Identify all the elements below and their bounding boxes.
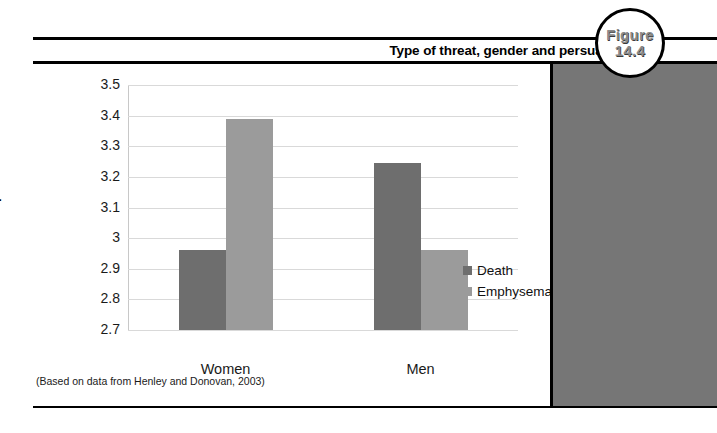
figure-badge-number: 14.4 — [615, 43, 645, 59]
figure-title: Type of threat, gender and persuasion — [33, 40, 648, 61]
source-note: (Based on data from Henley and Donovan, … — [36, 375, 265, 387]
gridline — [128, 85, 518, 86]
gridline — [128, 330, 518, 331]
y-tick-label: 2.7 — [60, 321, 120, 337]
plot-area: 3.53.43.33.23.132.92.82.7 WomenMen — [128, 85, 518, 330]
y-tick-label: 3.4 — [60, 107, 120, 123]
gridline — [128, 177, 518, 178]
legend-label-death: Death — [477, 263, 513, 278]
y-tick-label: 2.9 — [60, 260, 120, 276]
chart-area: Mean response 3.53.43.33.23.132.92.82.7 … — [33, 64, 550, 406]
y-tick-label: 3.5 — [60, 76, 120, 92]
y-tick-label: 3 — [60, 229, 120, 245]
bar-women-death — [179, 250, 226, 330]
figure-badge-word: Figure — [606, 27, 654, 43]
gridline — [128, 146, 518, 147]
bar-men-emphysema — [421, 250, 468, 330]
y-tick-label: 2.8 — [60, 290, 120, 306]
figure-root: Type of threat, gender and persuasion Fi… — [0, 0, 717, 433]
y-tick-label: 3.2 — [60, 168, 120, 184]
gridline — [128, 208, 518, 209]
legend-label-emphysema: Emphysema — [477, 284, 552, 299]
x-category-label: Men — [361, 361, 481, 377]
y-axis-title: Mean response — [0, 232, 1, 256]
legend-swatch-emphysema-icon — [463, 287, 472, 296]
bar-women-emphysema — [226, 119, 273, 330]
figure-number-badge: Figure 14.4 — [595, 8, 665, 78]
y-tick-label: 3.3 — [60, 137, 120, 153]
right-gray-panel — [550, 64, 717, 406]
gridline — [128, 116, 518, 117]
y-tick-label: 3.1 — [60, 199, 120, 215]
bar-men-death — [374, 163, 421, 330]
gridline — [128, 238, 518, 239]
legend-swatch-death-icon — [463, 266, 472, 275]
